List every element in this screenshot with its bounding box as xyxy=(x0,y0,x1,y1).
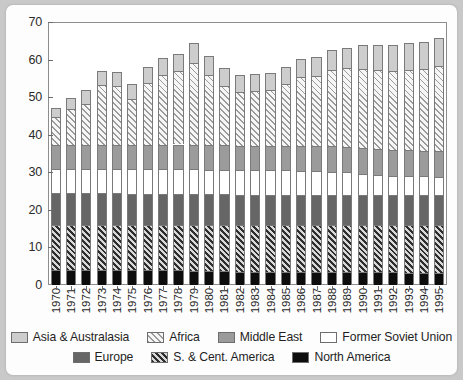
bar-segment xyxy=(434,177,444,195)
bar-segment xyxy=(434,225,444,272)
bar-segment xyxy=(143,145,153,169)
bar-column[interactable] xyxy=(204,22,214,285)
legend-item[interactable]: Former Soviet Union xyxy=(320,330,452,344)
bar-segment xyxy=(296,77,306,146)
bar-column[interactable] xyxy=(158,22,168,285)
bar-column[interactable] xyxy=(404,22,414,285)
bar-segment xyxy=(235,195,245,225)
bar-segment xyxy=(204,170,214,195)
legend-item[interactable]: North America xyxy=(292,350,390,364)
bar-segment xyxy=(311,225,321,272)
bar-segment xyxy=(189,43,199,62)
bar-segment xyxy=(250,91,260,145)
bar-segment xyxy=(97,193,107,225)
legend-label: Africa xyxy=(169,330,200,344)
x-tick-mark xyxy=(378,286,379,290)
bar-segment xyxy=(388,45,398,71)
y-tick-label: 50 xyxy=(16,90,42,104)
bar-column[interactable] xyxy=(81,22,91,285)
bar-segment xyxy=(204,194,214,225)
bar-column[interactable] xyxy=(358,22,368,285)
bar-column[interactable] xyxy=(388,22,398,285)
bar-column[interactable] xyxy=(434,22,444,285)
bar-column[interactable] xyxy=(127,22,137,285)
legend-label: Asia & Australasia xyxy=(33,330,129,344)
x-tick-mark xyxy=(255,286,256,290)
legend-label: Middle East xyxy=(240,330,303,344)
bar-column[interactable] xyxy=(327,22,337,285)
bar-segment xyxy=(173,54,183,71)
bar-column[interactable] xyxy=(112,22,122,285)
bar-segment xyxy=(281,225,291,272)
bar-column[interactable] xyxy=(235,22,245,285)
bar-column[interactable] xyxy=(250,22,260,285)
bar-segment xyxy=(235,92,245,146)
bar-column[interactable] xyxy=(265,22,275,285)
bar-segment xyxy=(265,73,275,90)
bar-column[interactable] xyxy=(342,22,352,285)
bar-segment xyxy=(219,170,229,195)
bar-segment xyxy=(51,145,61,169)
x-tick-mark xyxy=(178,286,179,290)
bar-segment xyxy=(265,195,275,225)
bar-segment xyxy=(173,194,183,225)
bar-column[interactable] xyxy=(373,22,383,285)
bar-segment xyxy=(204,225,214,271)
bar-segment xyxy=(434,151,444,177)
x-tick-label: 1984 xyxy=(265,288,277,313)
bar-column[interactable] xyxy=(311,22,321,285)
y-tick-mark xyxy=(48,22,53,23)
x-tick-mark xyxy=(332,286,333,290)
bar-column[interactable] xyxy=(296,22,306,285)
y-tick-label: 20 xyxy=(16,203,42,217)
bar-column[interactable] xyxy=(419,22,429,285)
bar-segment xyxy=(250,170,260,194)
bar-column[interactable] xyxy=(66,22,76,285)
bar-segment xyxy=(250,74,260,91)
y-tick-mark xyxy=(48,210,53,211)
bar-segment xyxy=(112,86,122,145)
x-tick-label: 1976 xyxy=(142,288,154,313)
x-tick-label: 1981 xyxy=(218,288,230,313)
bar-segment xyxy=(296,146,306,171)
legend-item[interactable]: S. & Cent. America xyxy=(151,350,274,364)
bar-segment xyxy=(388,195,398,225)
bar-segment xyxy=(296,59,306,77)
bar-segment xyxy=(311,57,321,76)
y-axis: 010203040506070 xyxy=(14,0,42,380)
bar-segment xyxy=(143,194,153,226)
bar-segment xyxy=(189,63,199,145)
bar-segment xyxy=(189,169,199,194)
bar-segment xyxy=(112,270,122,285)
legend-item[interactable]: Middle East xyxy=(218,330,303,344)
bar-segment xyxy=(373,195,383,225)
x-tick-label: 1989 xyxy=(341,288,353,313)
bar-segment xyxy=(434,38,444,67)
bar-segment xyxy=(51,117,61,145)
bar-segment xyxy=(158,75,168,145)
x-tick-label: 1975 xyxy=(126,288,138,313)
x-tick-mark xyxy=(224,286,225,290)
bar-segment xyxy=(342,48,352,68)
bar-segment xyxy=(342,272,352,285)
bar-segment xyxy=(112,193,122,225)
bar-column[interactable] xyxy=(173,22,183,285)
bar-column[interactable] xyxy=(281,22,291,285)
bar-segment xyxy=(311,146,321,171)
bar-segment xyxy=(219,145,229,170)
bar-column[interactable] xyxy=(51,22,61,285)
bar-segment xyxy=(281,195,291,225)
bar-column[interactable] xyxy=(189,22,199,285)
legend-swatch-icon xyxy=(73,352,90,363)
legend-item[interactable]: Asia & Australasia xyxy=(11,330,129,344)
bar-column[interactable] xyxy=(219,22,229,285)
x-tick-label: 1991 xyxy=(372,288,384,313)
legend-item[interactable]: Europe xyxy=(73,350,134,364)
bar-segment xyxy=(158,270,168,285)
legend-item[interactable]: Africa xyxy=(147,330,200,344)
bar-column[interactable] xyxy=(97,22,107,285)
bar-segment xyxy=(143,270,153,285)
bar-segment xyxy=(235,170,245,194)
bar-column[interactable] xyxy=(143,22,153,285)
bar-segment xyxy=(97,169,107,193)
